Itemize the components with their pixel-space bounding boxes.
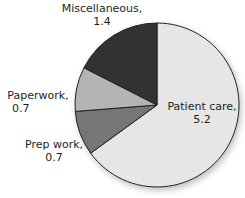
label-name: Patient care, xyxy=(162,100,242,113)
label-value: 5.2 xyxy=(162,113,242,126)
label-prep-work: Prep work, 0.7 xyxy=(22,138,86,164)
label-name: Miscellaneous, xyxy=(57,2,147,15)
label-value: 0.7 xyxy=(3,102,73,115)
label-miscellaneous: Miscellaneous, 1.4 xyxy=(57,2,147,28)
label-name: Prep work, xyxy=(22,138,86,151)
label-paperwork: Paperwork, 0.7 xyxy=(3,89,73,115)
label-name: Paperwork, xyxy=(3,89,73,102)
label-patient-care: Patient care, 5.2 xyxy=(162,100,242,126)
label-value: 0.7 xyxy=(22,151,86,164)
label-value: 1.4 xyxy=(57,15,147,28)
